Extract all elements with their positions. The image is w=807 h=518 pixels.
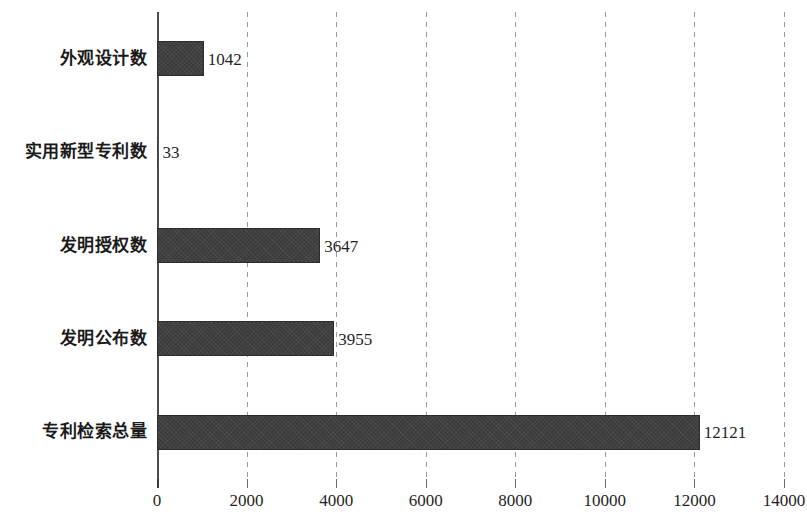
x-tick-label: 8000: [498, 492, 532, 509]
bar-value-label: 3647: [324, 238, 358, 255]
tick-mark: [336, 479, 337, 488]
category-label: 发明授权数: [0, 237, 147, 254]
bar: [157, 415, 700, 450]
category-label: 发明公布数: [0, 330, 147, 347]
tick-mark: [605, 479, 606, 488]
bar-value-label: 12121: [704, 424, 747, 441]
x-tick-label: 2000: [230, 492, 264, 509]
x-tick-label: 4000: [319, 492, 353, 509]
category-label: 外观设计数: [0, 50, 147, 67]
bar-value-label: 1042: [208, 51, 242, 68]
bar: [157, 135, 158, 170]
bar-value-label: 3955: [338, 331, 372, 348]
tick-mark: [694, 479, 695, 488]
bar: [157, 321, 334, 356]
bar-value-label: 33: [162, 144, 179, 161]
tick-mark: [247, 479, 248, 488]
bar-chart: 1042333647395512121 外观设计数实用新型专利数发明授权数发明公…: [0, 0, 807, 518]
x-tick-label: 0: [153, 492, 162, 509]
x-tick-label: 10000: [584, 492, 627, 509]
tick-mark: [515, 479, 516, 488]
tick-mark: [157, 479, 159, 488]
tick-mark: [426, 479, 427, 488]
gridline: [515, 12, 516, 479]
gridline: [605, 12, 606, 479]
bar: [157, 41, 204, 76]
category-label: 实用新型专利数: [0, 143, 147, 160]
x-tick-label: 12000: [673, 492, 716, 509]
category-label: 专利检索总量: [0, 423, 147, 440]
x-tick-label: 6000: [409, 492, 443, 509]
bar: [157, 228, 320, 263]
gridline: [784, 12, 785, 479]
gridline: [426, 12, 427, 479]
gridline: [694, 12, 695, 479]
x-tick-label: 14000: [763, 492, 806, 509]
tick-mark: [784, 479, 785, 488]
